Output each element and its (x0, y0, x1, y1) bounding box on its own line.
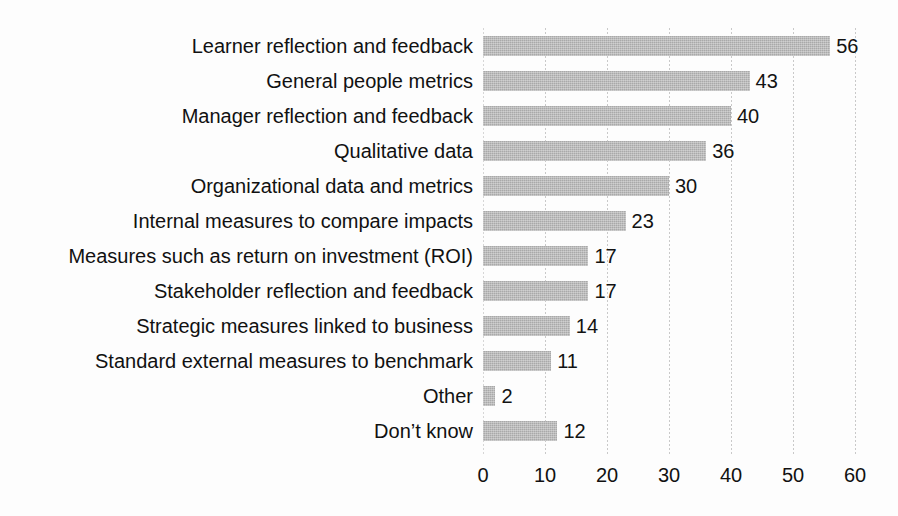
category-label: Organizational data and metrics (191, 176, 473, 196)
bar-row: 12 (483, 421, 855, 441)
bar (483, 141, 706, 161)
category-label: Measures such as return on investment (R… (68, 246, 473, 266)
category-label: Learner reflection and feedback (192, 36, 473, 56)
category-label: Strategic measures linked to business (136, 316, 473, 336)
category-label: Qualitative data (334, 141, 473, 161)
bar-value-label: 43 (750, 71, 778, 91)
bar (483, 351, 551, 371)
plot-area: 56434036302317171411212 (483, 28, 855, 456)
bar-value-label: 30 (669, 176, 697, 196)
x-tick-label-40: 40 (720, 464, 742, 487)
category-label: Internal measures to compare impacts (133, 211, 473, 231)
bar-row: 56 (483, 36, 855, 56)
bar (483, 176, 669, 196)
bar (483, 316, 570, 336)
bar-row: 14 (483, 316, 855, 336)
bar-value-label: 11 (551, 351, 578, 371)
bar-row: 36 (483, 141, 855, 161)
bar (483, 281, 588, 301)
bar-row: 43 (483, 71, 855, 91)
x-tick-label-10: 10 (534, 464, 556, 487)
x-tick-label-30: 30 (658, 464, 680, 487)
bar (483, 246, 588, 266)
bar-row: 11 (483, 351, 855, 371)
bar (483, 71, 750, 91)
category-label: Manager reflection and feedback (182, 106, 473, 126)
bar-value-label: 12 (557, 421, 585, 441)
bar-row: 23 (483, 211, 855, 231)
bar-row: 17 (483, 246, 855, 266)
category-label: General people metrics (266, 71, 473, 91)
x-tick-label-20: 20 (596, 464, 618, 487)
bar-value-label: 14 (570, 316, 598, 336)
category-axis-labels: Learner reflection and feedbackGeneral p… (0, 28, 478, 456)
bar-value-label: 40 (731, 106, 759, 126)
category-label: Standard external measures to benchmark (95, 351, 473, 371)
bar-value-label: 56 (830, 36, 858, 56)
bar (483, 421, 557, 441)
bar-value-label: 17 (588, 281, 616, 301)
bar-row: 30 (483, 176, 855, 196)
bar-rows: 56434036302317171411212 (483, 28, 855, 456)
bar-value-label: 23 (626, 211, 654, 231)
bar (483, 36, 830, 56)
x-tick-label-60: 60 (844, 464, 866, 487)
bar-value-label: 36 (706, 141, 734, 161)
x-tick-label-50: 50 (782, 464, 804, 487)
bar (483, 386, 495, 406)
x-tick-label-0: 0 (477, 464, 488, 487)
category-label: Don’t know (374, 421, 473, 441)
bar-value-label: 17 (588, 246, 616, 266)
bar-value-label: 2 (495, 386, 512, 406)
gridline-60 (855, 28, 856, 456)
bar-chart: Learner reflection and feedbackGeneral p… (0, 0, 898, 516)
category-label: Stakeholder reflection and feedback (154, 281, 473, 301)
bar-row: 2 (483, 386, 855, 406)
bar (483, 211, 626, 231)
bar-row: 40 (483, 106, 855, 126)
bar-row: 17 (483, 281, 855, 301)
bar (483, 106, 731, 126)
category-label: Other (423, 386, 473, 406)
